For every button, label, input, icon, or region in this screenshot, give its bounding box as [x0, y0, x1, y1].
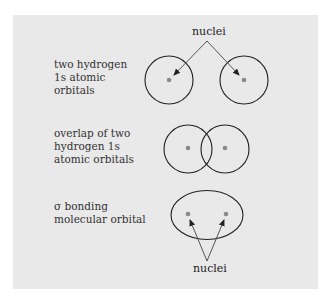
molecular-orbital-ellipse — [171, 191, 243, 240]
nucleus-dot — [186, 146, 191, 151]
orbital-diagram — [0, 0, 327, 299]
overlap-group — [164, 125, 249, 173]
nucleus-dot — [224, 212, 229, 217]
sigma-bond-group — [171, 191, 243, 262]
nucleus-dot — [167, 78, 172, 83]
nucleus-dot — [186, 212, 191, 217]
atomic-orbitals-group — [145, 41, 268, 104]
nucleus-dot — [223, 146, 228, 151]
nucleus-dot — [242, 78, 247, 83]
arrow-icon — [207, 220, 224, 261]
arrow-icon — [190, 220, 207, 261]
